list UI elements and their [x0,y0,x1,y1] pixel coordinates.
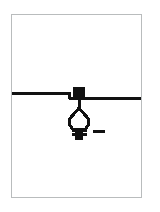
junction-box [73,87,85,99]
screenshot-root: Pendant Light Fixture Detail ceiling mou… [0,0,160,212]
drawing-canvas [0,0,160,212]
pendant-lamp-figure [0,0,160,212]
lamp-base-contact [75,129,83,140]
lamp-bulb-outline [69,108,89,130]
